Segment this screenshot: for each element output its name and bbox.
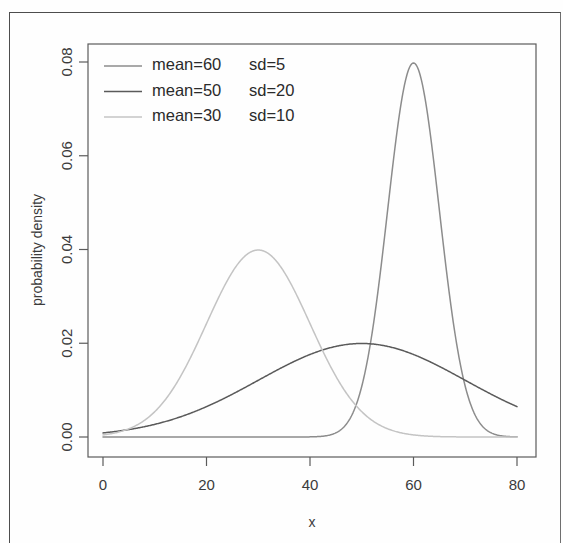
x-tick-label: 20 (198, 476, 215, 493)
probability-density-plot: 020406080 0.000.020.040.060.08 x probabi… (0, 0, 563, 543)
legend-sd-label-0: sd=5 (249, 55, 285, 73)
y-tick-label: 0.06 (58, 141, 75, 170)
chart-legend: mean=60sd=5mean=50sd=20mean=30sd=10 (104, 55, 294, 124)
y-axis-title: probability density (29, 194, 45, 306)
y-tick-label: 0.02 (58, 329, 75, 358)
y-tick-label: 0.08 (58, 47, 75, 76)
legend-sd-label-2: sd=10 (249, 106, 294, 124)
x-tick-label: 40 (302, 476, 319, 493)
x-tick-label: 0 (99, 476, 107, 493)
density-curve-1 (103, 344, 517, 433)
x-axis-tick-labels: 020406080 (99, 476, 526, 493)
y-tick-label: 0.04 (58, 235, 75, 264)
legend-mean-label-1: mean=50 (152, 81, 221, 99)
legend-sd-label-1: sd=20 (249, 81, 294, 99)
y-axis-ticks (79, 62, 88, 437)
legend-mean-label-0: mean=60 (152, 55, 221, 73)
density-curve-2 (103, 250, 517, 437)
scanned-page: 020406080 0.000.020.040.060.08 x probabi… (0, 0, 563, 543)
x-axis-title: x (309, 514, 316, 530)
x-tick-label: 80 (509, 476, 526, 493)
y-axis-tick-labels: 0.000.020.040.060.08 (58, 47, 75, 451)
x-axis-ticks (103, 457, 517, 466)
x-tick-label: 60 (405, 476, 422, 493)
legend-mean-label-2: mean=30 (152, 106, 221, 124)
y-tick-label: 0.00 (58, 422, 75, 451)
